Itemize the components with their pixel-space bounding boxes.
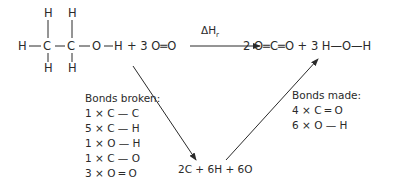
bond-made-item: 4 × C ═ O xyxy=(292,104,361,116)
delta-h-label: ΔHr xyxy=(201,24,219,41)
atom-c-1: C xyxy=(43,40,51,53)
atom-c-2: C xyxy=(67,40,75,53)
bond-made-item: 6 × O — H xyxy=(292,119,361,131)
atom-h-top-2: H xyxy=(68,7,77,20)
atom-h-left: H xyxy=(18,40,27,53)
bonds-broken-list: Bonds broken: 1 × C — C 5 × C — H 1 × O … xyxy=(85,92,160,179)
bonds-made-heading: Bonds made: xyxy=(292,89,361,101)
bond-broken-item: 3 × O ═ O xyxy=(85,167,160,179)
bonds-broken-heading: Bonds broken: xyxy=(85,92,160,104)
bond-broken-item: 5 × C — H xyxy=(85,122,160,134)
oxygen-reactant: + 3 O═O xyxy=(127,40,176,53)
products: 2 O═C═O + 3 H—O—H xyxy=(243,40,371,53)
bond-broken-item: 1 × C — O xyxy=(85,152,160,164)
atom-h-bottom-2: H xyxy=(68,62,77,75)
gaseous-atoms: 2C + 6H + 6O xyxy=(178,163,252,175)
bond-broken-item: 1 × O — H xyxy=(85,137,160,149)
atom-o: O xyxy=(92,40,101,53)
atom-h-top-1: H xyxy=(44,7,53,20)
atom-h-right: H xyxy=(114,40,123,53)
bond-broken-item: 1 × C — C xyxy=(85,107,160,119)
bonds-made-list: Bonds made: 4 × C ═ O 6 × O — H xyxy=(292,89,361,131)
atom-h-bottom-1: H xyxy=(44,62,53,75)
